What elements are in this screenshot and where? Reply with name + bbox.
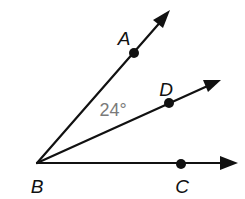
label-point-c: C <box>175 177 189 196</box>
label-vertex-b: B <box>31 177 44 196</box>
arrowhead-icon <box>153 10 170 28</box>
point-d <box>164 98 174 108</box>
ray-bd <box>37 80 221 163</box>
ray-ba <box>37 10 170 163</box>
ray-bc <box>37 156 238 170</box>
point-c <box>176 159 186 169</box>
arrowhead-icon <box>203 80 221 92</box>
label-point-a: A <box>118 29 131 48</box>
label-point-d: D <box>159 80 173 99</box>
arrowhead-icon <box>220 156 238 170</box>
angle-measure-label: 24° <box>99 101 126 119</box>
point-a <box>129 48 139 58</box>
